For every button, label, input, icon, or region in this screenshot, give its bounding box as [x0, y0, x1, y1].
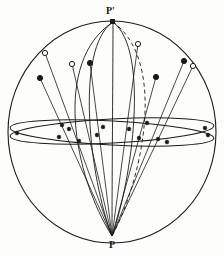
projection-line-pl4 [90, 63, 112, 236]
north-pole-marker [110, 19, 115, 24]
north-pole-label: P' [106, 6, 115, 16]
surface-point-m5-hollow [135, 41, 140, 46]
equator-point-e9 [145, 121, 149, 125]
surface-point-m3-hollow [69, 61, 74, 66]
projection-line-pl1 [40, 78, 112, 236]
surface-point-m6-filled [153, 74, 158, 79]
surface-point-m8-hollow [190, 63, 195, 68]
stereographic-projection-figure: P' P [0, 0, 224, 256]
equator-point-e12 [203, 126, 207, 130]
figure-canvas [0, 0, 224, 256]
projection-line-pl3 [72, 64, 112, 236]
south-pole-label: P [109, 240, 115, 250]
equator-point-e4 [60, 123, 64, 127]
equator-point-e5 [95, 133, 99, 137]
meridian-curve-meridian-3 [112, 22, 113, 236]
projection-line-pl7 [112, 61, 184, 236]
projection-lines-group [40, 44, 193, 236]
equator-point-e7 [127, 127, 131, 131]
equator-point-e13 [15, 131, 19, 135]
pole-markers-group [110, 19, 115, 24]
equator-point-e1 [57, 135, 61, 139]
equator-point-e8 [137, 136, 141, 140]
equator-point-e11 [165, 140, 169, 144]
equator-point-e2 [67, 127, 71, 131]
meridian-curves-group [75, 22, 145, 236]
surface-point-m2-hollow [42, 50, 47, 55]
equator-point-e14 [206, 133, 210, 137]
meridian-curve-meridian-2 [89, 22, 113, 236]
equator-point-e3 [77, 139, 81, 143]
surface-point-m1-filled [37, 75, 42, 80]
surface-point-markers-group [37, 41, 195, 80]
projection-line-pl8 [112, 66, 193, 236]
equator-point-e10 [156, 137, 160, 141]
surface-point-m7-filled [181, 58, 186, 63]
surface-point-m4-filled [87, 60, 92, 65]
equator-point-e6 [101, 125, 105, 129]
